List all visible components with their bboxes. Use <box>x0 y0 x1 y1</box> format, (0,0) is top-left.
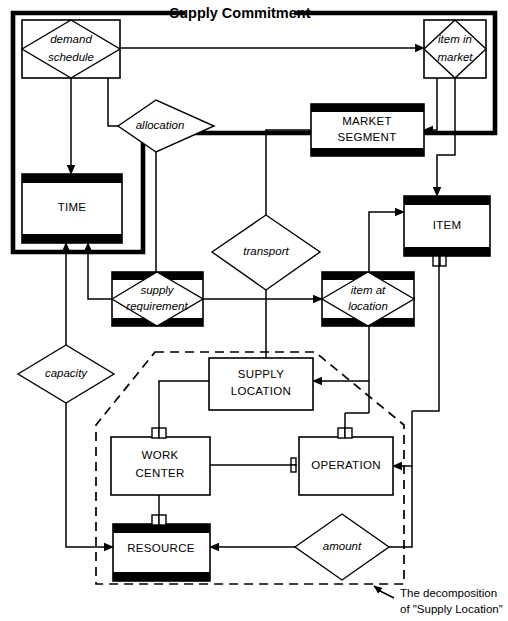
svg-text:of "Supply Location": of "Supply Location" <box>400 603 503 615</box>
node-allocation[interactable]: allocation <box>118 100 214 152</box>
node-amount[interactable]: amount <box>295 514 389 580</box>
cardinality-bar-work-center-top-left <box>152 428 159 438</box>
svg-text:supply: supply <box>140 284 174 296</box>
link-demand-schedule-to-allocation <box>108 78 118 126</box>
link-item-to-operation <box>393 411 412 466</box>
svg-text:The decomposition: The decomposition <box>400 587 497 599</box>
grouping-title-supply-commitment: Supply Commitment <box>170 5 311 21</box>
svg-text:item in: item in <box>438 33 472 45</box>
link-market-segment-bus <box>266 130 311 232</box>
svg-text:CENTER: CENTER <box>135 467 184 479</box>
decomposition-caption: The decomposition of "Supply Location" <box>400 587 503 615</box>
svg-text:capacity: capacity <box>45 367 88 379</box>
node-item-in-market[interactable]: item in market <box>424 20 486 78</box>
link-item-at-location-to-item <box>369 212 404 272</box>
node-operation[interactable]: OPERATION <box>291 428 393 495</box>
link-item-in-market-to-market-segment <box>424 78 437 130</box>
cardinality-bar-operation-left-top <box>291 458 296 465</box>
svg-text:OPERATION: OPERATION <box>311 459 381 471</box>
svg-text:location: location <box>348 300 388 312</box>
svg-text:requirement: requirement <box>126 300 188 312</box>
svg-text:RESOURCE: RESOURCE <box>127 542 195 554</box>
link-capacity-to-resource <box>66 403 113 547</box>
link-item-in-market-to-item <box>437 78 455 196</box>
node-transport[interactable]: transport <box>212 215 320 290</box>
cardinality-bar-operation-top-left <box>338 428 345 438</box>
node-work-center[interactable]: WORK CENTER <box>111 428 210 495</box>
link-item-to-operation-path <box>412 262 439 411</box>
cardinality-bar-resource-top-left <box>152 515 159 525</box>
cardinality-bar-resource-top-right <box>159 515 166 525</box>
svg-text:WORK: WORK <box>142 449 179 461</box>
er-diagram-canvas: Supply Commitment <box>0 0 508 621</box>
svg-text:SEGMENT: SEGMENT <box>338 131 397 143</box>
node-supply-requirement[interactable]: supply requirement <box>112 272 203 326</box>
cardinality-bar-operation-left-bottom <box>291 465 296 472</box>
svg-text:TIME: TIME <box>58 201 87 213</box>
svg-text:SUPPLY: SUPPLY <box>238 368 284 380</box>
node-capacity[interactable]: capacity <box>18 345 114 403</box>
svg-text:item at: item at <box>351 284 386 296</box>
svg-text:market: market <box>437 51 473 63</box>
node-time[interactable]: TIME <box>22 174 122 243</box>
node-demand-schedule[interactable]: demand schedule <box>22 20 120 78</box>
node-item-at-location[interactable]: item at location <box>322 272 414 326</box>
svg-text:demand: demand <box>50 33 92 45</box>
node-market-segment[interactable]: MARKET SEGMENT <box>311 104 424 156</box>
cardinality-bar-work-center-top-right <box>159 428 166 438</box>
svg-text:LOCATION: LOCATION <box>231 385 291 397</box>
cardinality-bar-item-left <box>433 256 439 266</box>
svg-text:schedule: schedule <box>48 51 94 63</box>
caption-leader-arrow <box>374 586 394 598</box>
svg-text:MARKET: MARKET <box>342 115 392 127</box>
node-supply-location[interactable]: SUPPLY LOCATION <box>209 358 313 410</box>
link-supply-location-to-work-center <box>159 381 209 432</box>
er-diagram-svg: Supply Commitment <box>0 0 508 621</box>
node-resource[interactable]: RESOURCE <box>113 515 210 581</box>
svg-text:allocation: allocation <box>136 119 185 131</box>
svg-text:transport: transport <box>243 245 289 257</box>
svg-text:amount: amount <box>323 540 362 552</box>
node-item[interactable]: ITEM <box>404 196 490 266</box>
svg-text:ITEM: ITEM <box>433 219 462 231</box>
cardinality-bar-item-right <box>440 256 446 266</box>
cardinality-bar-operation-top-right <box>345 428 352 438</box>
